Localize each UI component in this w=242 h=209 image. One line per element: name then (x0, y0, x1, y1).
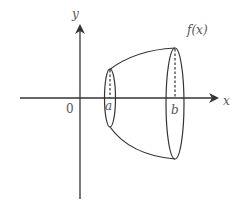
function-label: f(x) (186, 23, 208, 37)
a-label: a (105, 99, 112, 113)
b-label: b (171, 103, 179, 117)
upper-curve (109, 48, 175, 70)
x-axis-label: x (223, 94, 230, 108)
lower-curve (110, 127, 175, 159)
y-axis-label: y (71, 7, 79, 21)
origin-label: 0 (66, 102, 74, 116)
solid-of-revolution-diagram: y x 0 a b f(x) (0, 0, 242, 209)
